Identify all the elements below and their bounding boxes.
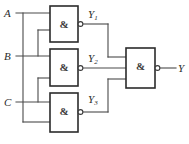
circuit-diagram-svg: & & & & A B C Y1 Y2 Y3 Y: [0, 0, 189, 144]
logic-circuit-figure: & & & & A B C Y1 Y2 Y3 Y: [0, 0, 189, 144]
gate-3-symbol: &: [59, 105, 68, 117]
signal-label-y1: Y1: [88, 8, 98, 22]
gate-4-output-bubble: [155, 66, 160, 71]
signal-label-y3: Y3: [88, 93, 98, 107]
output-label-y: Y: [178, 62, 186, 74]
input-label-c: C: [4, 96, 12, 108]
gate-1-symbol: &: [59, 18, 68, 30]
input-label-b: B: [4, 50, 11, 62]
gate-2-output-bubble: [78, 66, 83, 71]
gate-3-output-bubble: [78, 110, 83, 115]
input-label-a: A: [3, 7, 11, 19]
signal-label-y2: Y2: [88, 52, 98, 66]
gate-1-output-bubble: [78, 22, 83, 27]
gate-2-symbol: &: [59, 61, 68, 73]
gate-4-symbol: &: [136, 60, 145, 72]
